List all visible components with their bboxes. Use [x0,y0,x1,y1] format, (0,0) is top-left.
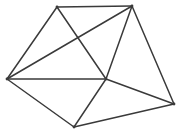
edge-tr-right [132,6,174,104]
edge-tl-tr [57,6,132,7]
edge-left-bottom [7,79,74,127]
edge-center-right [106,79,174,104]
graph-vertex-top-left [56,6,59,9]
edge-tl-left [7,7,57,79]
graph-vertex-bottom [73,126,76,129]
edge-tr-left [7,6,132,79]
edge-layer [7,6,174,127]
graph-canvas [0,0,180,135]
edge-tr-center [106,6,132,79]
graph-vertex-left [6,78,9,81]
edge-tl-center [57,7,106,79]
graph-vertex-right [173,103,176,106]
edge-bottom-right [74,104,174,127]
graph-diagram [0,0,180,135]
edge-center-bottom [74,79,106,127]
graph-vertex-top-right [131,5,134,8]
graph-vertex-center [105,78,108,81]
